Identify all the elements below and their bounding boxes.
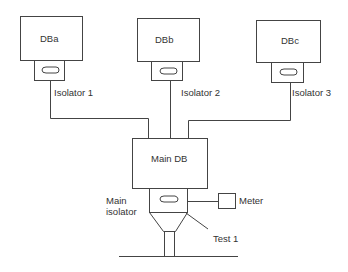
isolator-1-switch-icon <box>42 67 59 73</box>
main-isolator-switch-icon <box>160 196 178 202</box>
isolator-2-switch-icon <box>160 68 177 74</box>
isolator-1-label: Isolator 1 <box>54 87 93 98</box>
meter-box <box>219 194 236 209</box>
dbc-label: DBc <box>281 35 299 46</box>
isolator-1-box <box>35 61 65 81</box>
main-isolator-label-line2: isolator <box>106 206 137 217</box>
isolator-3-switch-icon <box>280 69 297 75</box>
main-db-label: Main DB <box>151 153 187 164</box>
test-1-pointer <box>186 213 208 229</box>
test-1-label: Test 1 <box>213 233 238 244</box>
main-isolator-funnel <box>150 213 188 232</box>
isolator-2-box <box>152 62 183 81</box>
main-isolator-label-line1: Main <box>106 195 127 206</box>
isolator-3-label: Isolator 3 <box>292 87 331 98</box>
isolator-2-label: Isolator 2 <box>181 87 220 98</box>
main-isolator-box <box>150 189 188 213</box>
dbb-label: DBb <box>155 34 173 45</box>
dba-label: DBa <box>40 33 58 44</box>
isolator-3-box <box>272 63 304 83</box>
meter-label: Meter <box>239 195 263 206</box>
